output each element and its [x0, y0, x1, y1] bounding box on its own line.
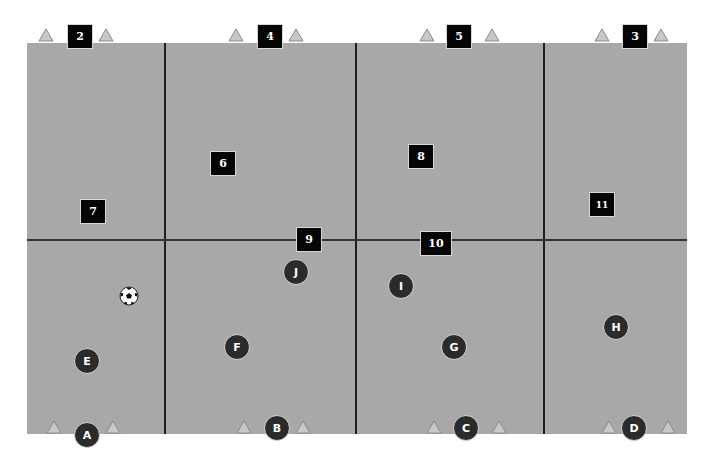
- player-H: H: [603, 314, 629, 340]
- player-J: J: [283, 259, 309, 285]
- marker-box-7: 7: [80, 199, 106, 224]
- marker-box-9: 9: [296, 227, 322, 252]
- zone-line-horizontal: [27, 239, 687, 241]
- player-G: G: [441, 334, 467, 360]
- marker-box-6: 6: [210, 151, 236, 176]
- player-D: D: [621, 415, 647, 441]
- marker-box-4: 4: [257, 24, 283, 49]
- marker-box-11: 11: [589, 192, 615, 217]
- player-E: E: [74, 348, 100, 374]
- player-F: F: [224, 334, 250, 360]
- marker-box-2: 2: [67, 24, 93, 49]
- marker-box-3: 3: [622, 24, 648, 49]
- player-C: C: [453, 415, 479, 441]
- player-A: A: [74, 422, 100, 448]
- marker-box-8: 8: [408, 144, 434, 169]
- player-I: I: [388, 273, 414, 299]
- player-B: B: [264, 415, 290, 441]
- soccer-ball-icon: [119, 286, 139, 310]
- marker-box-10: 10: [420, 231, 452, 256]
- marker-box-5: 5: [446, 24, 472, 49]
